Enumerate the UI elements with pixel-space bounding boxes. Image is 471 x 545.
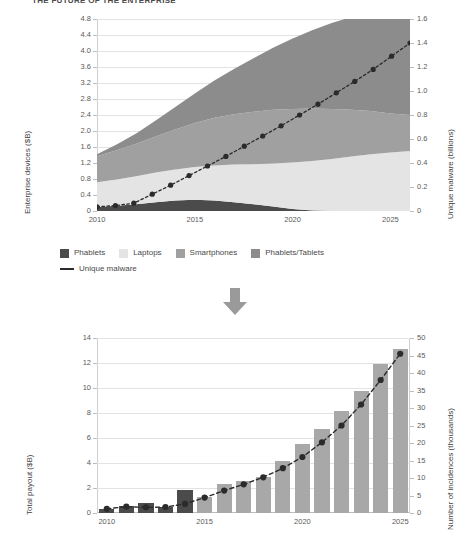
bottom-chart-incidences-marker bbox=[299, 454, 305, 460]
bottom-chart-ytick-mark bbox=[93, 363, 97, 364]
top-chart-y2tick-label: 0 bbox=[417, 207, 447, 215]
bottom-chart-ytick-label: 14 bbox=[57, 334, 91, 342]
bottom-chart-y2tick-mark bbox=[410, 408, 414, 409]
bottom-chart-incidences-marker bbox=[338, 422, 344, 428]
top-chart-y2tick-mark bbox=[410, 139, 414, 140]
top-chart-ytick-mark bbox=[93, 67, 97, 68]
bottom-chart-ytick-mark bbox=[93, 513, 97, 514]
top-chart-y2tick-mark bbox=[410, 67, 414, 68]
top-chart-malware-marker bbox=[242, 144, 247, 149]
bottom-chart-ytick-label: 6 bbox=[57, 434, 91, 442]
bottom-chart-ytick-mark bbox=[93, 488, 97, 489]
bottom-chart-y2tick-mark bbox=[410, 461, 414, 462]
top-chart-ytick-label: 0.4 bbox=[57, 191, 91, 199]
top-chart-y2tick-label: 1.0 bbox=[417, 87, 447, 95]
top-chart-xtick-label: 2025 bbox=[370, 216, 410, 224]
top-chart-y2tick-mark bbox=[410, 43, 414, 44]
bottom-chart-y2tick-label: 25 bbox=[417, 422, 447, 430]
bottom-chart-incidences-marker bbox=[182, 501, 188, 507]
top-chart-malware-marker bbox=[131, 201, 136, 206]
bottom-chart-incidences-marker bbox=[104, 506, 110, 512]
top-chart-y2tick-label: 1.2 bbox=[417, 63, 447, 71]
bottom-chart-y2tick-label: 50 bbox=[417, 334, 447, 342]
top-chart-y2tick-mark bbox=[410, 115, 414, 116]
bottom-chart-incidences-marker bbox=[319, 439, 325, 445]
infographic-page: THE FUTURE OF THE ENTERPRISE Enterprise … bbox=[0, 0, 471, 545]
top-chart-y2tick-label: 1.4 bbox=[417, 39, 447, 47]
bottom-chart-y2tick-label: 15 bbox=[417, 457, 447, 465]
bottom-chart-xtick-label: 2025 bbox=[380, 518, 420, 526]
bottom-chart-incidences-marker bbox=[378, 377, 384, 383]
bottom-chart-ytick-mark bbox=[93, 438, 97, 439]
bottom-chart-y2tick-label: 45 bbox=[417, 352, 447, 360]
bottom-chart-incidences-marker bbox=[123, 504, 129, 510]
top-chart-y2tick-label: 0.6 bbox=[417, 135, 447, 143]
legend-item-unique-malware[interactable]: Unique malware bbox=[60, 265, 137, 273]
top-chart-y2tick-mark bbox=[410, 19, 414, 20]
top-chart-malware-marker bbox=[389, 54, 394, 59]
total-payout-chart: Total payout ($B) Number of incidences (… bbox=[0, 330, 471, 545]
top-chart-ytick-mark bbox=[93, 115, 97, 116]
top-chart-ytick-label: 2.8 bbox=[57, 95, 91, 103]
bottom-chart-xtick-label: 2020 bbox=[282, 518, 322, 526]
top-chart-ytick-label: 2.0 bbox=[57, 127, 91, 135]
bottom-chart-y2tick-label: 0 bbox=[417, 509, 447, 517]
bottom-chart-y2tick-mark bbox=[410, 443, 414, 444]
bottom-chart-y2-axis-title: Number of incidences (thousands) bbox=[447, 408, 455, 530]
top-chart-ytick-mark bbox=[93, 147, 97, 148]
top-chart-y2tick-label: 1.6 bbox=[417, 15, 447, 23]
bottom-chart-ytick-label: 4 bbox=[57, 459, 91, 467]
legend-row-primary: PhabletsLaptopsSmartphonesPhablets/Table… bbox=[60, 247, 338, 259]
top-chart-series-svg bbox=[97, 19, 410, 211]
top-chart-ytick-mark bbox=[93, 19, 97, 20]
top-chart-y-axis-title: Enterprise devices ($B) bbox=[24, 131, 32, 214]
bottom-chart-y2tick-mark bbox=[410, 513, 414, 514]
top-chart-ytick-label: 3.2 bbox=[57, 79, 91, 87]
bottom-chart-y2tick-mark bbox=[410, 426, 414, 427]
down-arrow-icon bbox=[220, 288, 250, 316]
top-chart-malware-marker bbox=[260, 133, 265, 138]
top-chart-ytick-mark bbox=[93, 99, 97, 100]
legend-swatch-2 bbox=[176, 249, 185, 258]
bottom-chart-y2tick-label: 5 bbox=[417, 492, 447, 500]
top-chart-malware-marker bbox=[113, 203, 118, 208]
legend-item-laptops[interactable]: Laptops bbox=[119, 249, 161, 258]
bottom-chart-incidences-marker bbox=[397, 351, 403, 357]
top-chart-malware-marker bbox=[279, 123, 284, 128]
bottom-chart-incidences-marker bbox=[358, 401, 364, 407]
bottom-chart-plot-area bbox=[97, 338, 410, 513]
bottom-chart-xtick-label: 2015 bbox=[185, 518, 225, 526]
legend-swatch-1 bbox=[119, 249, 128, 258]
bottom-chart-ytick-label: 8 bbox=[57, 409, 91, 417]
top-chart-y2tick-label: 0.8 bbox=[417, 111, 447, 119]
legend-item-phablets-tablets[interactable]: Phablets/Tablets bbox=[251, 249, 324, 258]
enterprise-devices-chart: Enterprise devices ($B) Unique malware (… bbox=[0, 14, 471, 244]
top-chart-malware-marker bbox=[334, 90, 339, 95]
page-title: THE FUTURE OF THE ENTERPRISE bbox=[32, 0, 176, 5]
bottom-chart-incidences-marker bbox=[280, 465, 286, 471]
bottom-chart-ytick-label: 2 bbox=[57, 484, 91, 492]
top-chart-y2tick-mark bbox=[410, 211, 414, 212]
top-chart-xtick-label: 2020 bbox=[273, 216, 313, 224]
bottom-chart-y-axis-title: Total payout ($B) bbox=[26, 455, 34, 515]
bottom-chart-y2tick-mark bbox=[410, 356, 414, 357]
bottom-chart-series-svg bbox=[97, 338, 410, 513]
bottom-chart-ytick-label: 0 bbox=[57, 509, 91, 517]
bottom-chart-ytick-label: 12 bbox=[57, 359, 91, 367]
bottom-chart-y2tick-label: 35 bbox=[417, 387, 447, 395]
top-chart-y2tick-label: 0.4 bbox=[417, 159, 447, 167]
bottom-chart-ytick-label: 10 bbox=[57, 384, 91, 392]
bottom-chart-incidences-marker bbox=[143, 504, 149, 510]
legend-row-secondary: Unique malware bbox=[60, 263, 338, 275]
legend-label-line: Unique malware bbox=[79, 265, 137, 273]
legend-item-smartphones[interactable]: Smartphones bbox=[176, 249, 238, 258]
bottom-chart-ytick-mark bbox=[93, 338, 97, 339]
top-chart-ytick-mark bbox=[93, 179, 97, 180]
top-chart-ytick-label: 4.8 bbox=[57, 15, 91, 23]
bottom-chart-y2tick-label: 20 bbox=[417, 439, 447, 447]
top-chart-malware-marker bbox=[223, 154, 228, 159]
bottom-chart-y2tick-label: 10 bbox=[417, 474, 447, 482]
bottom-chart-ytick-mark bbox=[93, 413, 97, 414]
legend-item-phablets[interactable]: Phablets bbox=[60, 249, 105, 258]
bottom-chart-y2tick-mark bbox=[410, 338, 414, 339]
